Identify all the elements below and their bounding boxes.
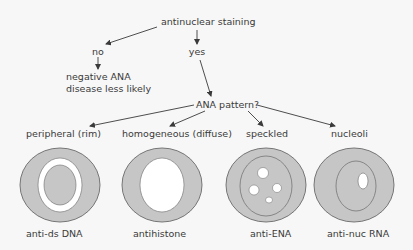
antibody-label-anti-ena: anti-ENA bbox=[250, 228, 291, 239]
nucleolar-stain-cell-icon bbox=[311, 145, 397, 225]
yes-branch-label: yes bbox=[189, 46, 205, 57]
negative-result-line1: negative ANA bbox=[66, 71, 131, 82]
pattern-label-peripheral: peripheral (rim) bbox=[26, 128, 101, 139]
pattern-label-speckled: speckled bbox=[246, 128, 288, 139]
ana-flowchart: antinuclear staining no yes negative ANA… bbox=[0, 0, 413, 250]
rim-stain-cell-icon bbox=[17, 145, 103, 225]
antibody-label-antihistone: antihistone bbox=[133, 228, 186, 239]
speckled-stain-cell-icon bbox=[223, 145, 309, 225]
antibody-label-anti-nuc-rna: anti-nuc RNA bbox=[327, 228, 389, 239]
homogeneous-stain-cell-icon bbox=[119, 145, 205, 225]
pattern-label-homogeneous: homogeneous (diffuse) bbox=[122, 128, 232, 139]
antibody-label-anti-ds-dna: anti-ds DNA bbox=[26, 228, 83, 239]
pattern-question-label: ANA pattern? bbox=[196, 99, 259, 110]
negative-result-line2: disease less likely bbox=[66, 83, 151, 94]
no-branch-label: no bbox=[92, 46, 104, 57]
pattern-label-nucleoli: nucleoli bbox=[331, 128, 368, 139]
root-node-label: antinuclear staining bbox=[161, 16, 256, 27]
